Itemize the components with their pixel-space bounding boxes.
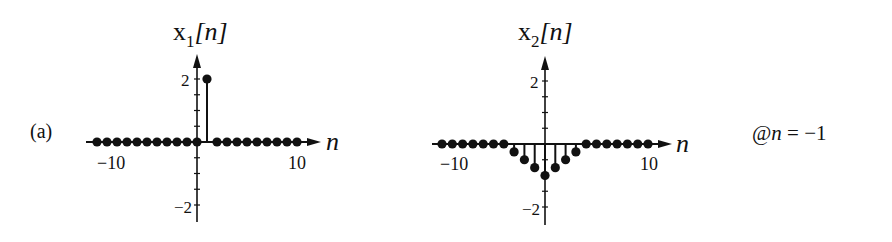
stem-marker xyxy=(252,137,261,146)
stem-marker xyxy=(282,137,291,146)
stem-marker xyxy=(540,171,549,180)
stem-marker xyxy=(499,139,508,148)
x-axis-label: n xyxy=(326,127,339,156)
stem-marker xyxy=(202,74,211,83)
y-tick-label-min: −2 xyxy=(522,200,540,219)
figure: (a) x1[n] −10 10 2 −2 n x2[n] −10 10 2 −… xyxy=(0,0,892,242)
stem-marker xyxy=(272,137,281,146)
y-tick-label-max: 2 xyxy=(530,73,539,92)
stem-marker xyxy=(182,137,191,146)
stem-marker xyxy=(489,139,498,148)
stem-marker xyxy=(172,137,181,146)
stem-marker xyxy=(437,139,446,148)
stem-marker xyxy=(448,139,457,148)
x-tick-label-max: 10 xyxy=(288,153,306,173)
stem-marker xyxy=(162,137,171,146)
stem-marker xyxy=(122,137,131,146)
stem-marker xyxy=(262,137,271,146)
stem-marker xyxy=(142,137,151,146)
x-tick-label-max: 10 xyxy=(640,154,658,174)
stem-marker xyxy=(232,137,241,146)
x-axis-label: n xyxy=(676,129,689,158)
panel-label: (a) xyxy=(30,120,52,143)
stem-marker xyxy=(643,139,652,148)
stem-marker xyxy=(292,137,301,146)
stem-marker xyxy=(222,137,231,146)
stem-marker xyxy=(571,147,580,156)
stem-marker xyxy=(479,139,488,148)
plot-x1: x1[n] −10 10 2 −2 n xyxy=(86,17,339,222)
stem-marker xyxy=(623,139,632,148)
stem-marker xyxy=(582,139,591,148)
stem-marker xyxy=(602,139,611,148)
stem-marker xyxy=(112,137,121,146)
y-tick-label-min: −2 xyxy=(174,198,192,217)
stem-marker xyxy=(561,155,570,164)
stem-marker xyxy=(242,137,251,146)
stem-marker xyxy=(192,137,201,146)
stem-marker xyxy=(152,137,161,146)
stem-marker xyxy=(468,139,477,148)
plot-x2: x2[n] −10 10 2 −2 n xyxy=(432,17,689,225)
stem-marker xyxy=(530,163,539,172)
stem-marker xyxy=(132,137,141,146)
x-tick-label-min: −10 xyxy=(440,154,468,174)
annotation: @n = −1 xyxy=(752,121,827,145)
x-tick-label-min: −10 xyxy=(97,153,125,173)
y-tick-label-max: 2 xyxy=(181,71,190,90)
plot-title-x2: x2[n] xyxy=(518,17,573,51)
stem-marker xyxy=(509,147,518,156)
stem-marker xyxy=(633,139,642,148)
stem-marker xyxy=(458,139,467,148)
stem-marker xyxy=(520,155,529,164)
stem-marker xyxy=(613,139,622,148)
stem-marker xyxy=(592,139,601,148)
stem-marker xyxy=(551,163,560,172)
y-axis-arrow-icon xyxy=(541,56,549,70)
x-axis-arrow-icon xyxy=(307,138,321,146)
x-axis-arrow-icon xyxy=(658,140,672,148)
y-axis-arrow-icon xyxy=(193,54,201,68)
stems-x2 xyxy=(437,139,652,180)
stem-marker xyxy=(212,137,221,146)
plot-title-x1: x1[n] xyxy=(173,17,228,51)
stem-marker xyxy=(92,137,101,146)
stem-marker xyxy=(102,137,111,146)
